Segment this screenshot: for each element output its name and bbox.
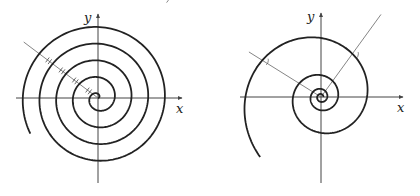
y-axis-label: y xyxy=(83,10,92,25)
equal-angle-marks xyxy=(157,0,412,67)
y-axis-label: y xyxy=(306,9,315,24)
archimedean-spiral-curve xyxy=(23,27,165,161)
x-axis-label: x xyxy=(397,100,405,115)
radial-rays xyxy=(249,14,381,97)
archimedean-spiral-plot: x y xyxy=(16,10,184,183)
x-axis-label: x xyxy=(176,101,184,116)
logarithmic-spiral-plot: x y xyxy=(157,0,412,183)
figure-canvas: x y x y xyxy=(0,0,420,196)
